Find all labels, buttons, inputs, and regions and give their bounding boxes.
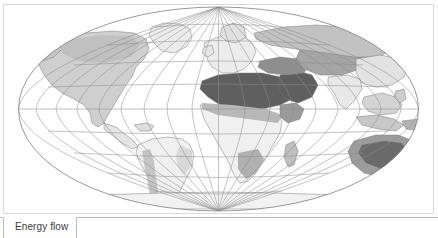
world-map-svg[interactable]	[4, 5, 433, 213]
legend-label: Energy flow	[15, 221, 68, 233]
map-frame	[3, 4, 434, 214]
legend-box[interactable]: Energy flow	[3, 217, 77, 238]
land-antarctica	[24, 192, 414, 209]
land-japan	[406, 55, 420, 73]
land-new-zealand	[418, 159, 432, 181]
land-tasmania	[400, 177, 410, 187]
world-map-page: Energy flow	[0, 0, 438, 238]
legend-strip: Energy flow	[0, 217, 438, 238]
